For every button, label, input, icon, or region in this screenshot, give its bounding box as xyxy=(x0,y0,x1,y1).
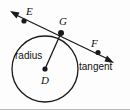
radius-label: radius xyxy=(15,51,42,61)
point-label-g: G xyxy=(59,16,67,27)
point-f-dot xyxy=(95,50,100,55)
point-label-d: D xyxy=(41,75,49,86)
point-label-e: E xyxy=(26,6,33,17)
bottom-divider xyxy=(0,109,130,110)
point-d-dot xyxy=(42,66,47,71)
point-e-dot xyxy=(21,18,26,23)
point-label-f: F xyxy=(91,38,98,49)
point-g-dot xyxy=(58,30,64,36)
radius-segment xyxy=(45,33,61,69)
tangent-arrowhead-left xyxy=(10,11,20,19)
geometry-diagram: E G F D radius tangent xyxy=(0,0,130,110)
tangent-label: tangent xyxy=(79,62,112,72)
